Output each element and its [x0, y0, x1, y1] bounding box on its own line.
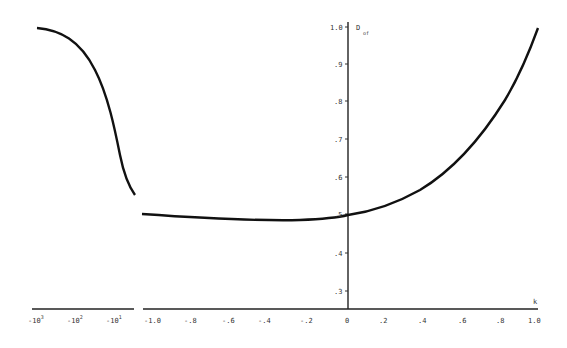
left-curve [37, 28, 135, 195]
x-tick-label: -1.0 [144, 317, 161, 325]
x-tick-label: -.6 [222, 317, 235, 325]
x-tick-label: .4 [418, 317, 426, 325]
y-tick-label: .9 [334, 61, 342, 69]
x-tick-label: 1.0 [528, 317, 541, 325]
x-tick-label: -.2 [300, 317, 313, 325]
x-tick-label: .8 [496, 317, 504, 325]
y-tick-label: .5 [334, 211, 342, 219]
y-tick-label: .4 [334, 250, 342, 258]
y-tick-label: .6 [334, 174, 342, 182]
main-curve [142, 28, 538, 220]
y-tick-label: .8 [334, 98, 342, 106]
y-axis-label-subscript: of [363, 30, 369, 36]
x-tick-label: .2 [379, 317, 387, 325]
x-tick-label: .6 [458, 317, 466, 325]
y-axis-label: D [356, 24, 360, 32]
x-tick-label: -.4 [258, 317, 271, 325]
log-tick-label: -103 [28, 314, 44, 325]
log-tick-label: -102 [67, 314, 83, 325]
y-tick-label: .3 [334, 288, 342, 296]
log-tick-label: -101 [106, 314, 122, 325]
x-tick-label: -.8 [184, 317, 197, 325]
chart: 1.0 .9 .8 .7 .6 .5 .4 .3 D of k -1.0 -.8… [0, 0, 567, 348]
x-tick-label: 0 [345, 317, 349, 325]
y-tick-label: .7 [334, 136, 342, 144]
y-tick-label: 1.0 [330, 24, 343, 32]
x-axis-label: k [533, 298, 538, 306]
